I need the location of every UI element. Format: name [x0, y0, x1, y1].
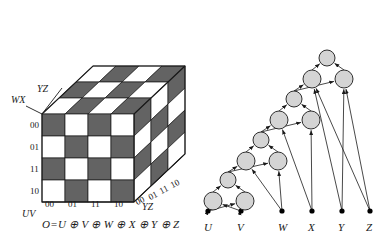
tree-node-n4[interactable] — [269, 152, 287, 170]
tree-node-n9[interactable] — [303, 70, 321, 88]
tree-input-label-u: U — [204, 222, 212, 233]
xor-cascade-tree — [0, 0, 382, 246]
tree-edge-merge-l-1 — [246, 146, 254, 152]
tree-edge-merge-l-2 — [279, 105, 287, 111]
tree-edge-merge-r-0 — [236, 185, 245, 192]
tree-edge-merge-l-0 — [213, 186, 221, 192]
tree-terminal-dot-x — [309, 208, 314, 213]
tree-edge-z-n10 — [346, 89, 370, 211]
tree-terminal-dot-y — [339, 208, 344, 213]
tree-terminal-dot-z — [367, 208, 372, 213]
tree-edge-in-l-1 — [282, 130, 312, 211]
tree-edge-in-l-2 — [314, 89, 342, 211]
tree-node-n5[interactable] — [253, 132, 269, 148]
tree-node-n6[interactable] — [270, 111, 288, 129]
tree-edge-in-l-0 — [252, 169, 282, 211]
figure-root: WX YZ UV YZ 00 01 11 10 00 01 11 10 00 0… — [0, 0, 382, 246]
tree-node-n7[interactable] — [302, 111, 320, 129]
tree-terminal-dot-w — [279, 208, 284, 213]
tree-edge-merge-r-1 — [269, 145, 278, 152]
tree-edge-merge-l-3 — [312, 64, 320, 70]
tree-input-label-x: X — [308, 222, 315, 233]
tree-node-n10[interactable] — [335, 70, 353, 88]
tree-edge-merge-r-2 — [302, 104, 311, 111]
tree-edge-z-n9 — [316, 88, 370, 211]
tree-node-n2[interactable] — [220, 172, 236, 188]
tree-edge-merge-r-3 — [335, 63, 344, 70]
tree-input-label-y: Y — [338, 222, 344, 233]
tree-node-n0[interactable] — [204, 192, 222, 210]
tree-node-n11[interactable] — [319, 50, 335, 66]
tree-edge-in-r-1 — [311, 130, 312, 211]
tree-input-label-z: Z — [366, 222, 372, 233]
tree-input-label-w: W — [278, 222, 287, 233]
tree-node-n8[interactable] — [286, 91, 302, 107]
tree-node-n3[interactable] — [237, 152, 255, 170]
tree-input-label-v: V — [237, 222, 244, 233]
tree-edge-in-r-0 — [279, 171, 282, 211]
tree-node-n1[interactable] — [236, 192, 254, 210]
